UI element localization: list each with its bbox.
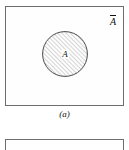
figure-root: A A (a) — [0, 0, 129, 150]
panel-a-caption: (a) — [0, 110, 129, 120]
universal-set-box-panel-b — [5, 139, 124, 150]
complement-label-text: A — [110, 15, 116, 27]
set-a-label: A — [61, 50, 69, 59]
set-a-circle: A — [42, 31, 88, 77]
universal-set-box-panel-a: A A — [5, 6, 124, 106]
complement-label-a-bar: A — [110, 15, 116, 27]
